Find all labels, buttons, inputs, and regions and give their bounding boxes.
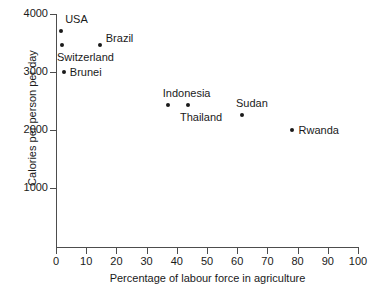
x-tick-label: 70 [252,256,282,267]
y-tick-mark [50,14,56,15]
x-tick-label: 0 [41,256,71,267]
x-tick-label: 80 [283,256,313,267]
x-tick-label: 30 [132,256,162,267]
data-point-label: Brazil [106,33,134,44]
x-axis-title: Percentage of labour force in agricultur… [56,272,359,284]
y-tick-label: 2000 [0,124,48,135]
x-tick-label: 100 [343,256,373,267]
x-tick-mark [147,248,148,254]
data-point-label: Sudan [236,98,268,109]
x-tick-mark [116,248,117,254]
y-tick-mark [50,130,56,131]
data-point-label: USA [65,14,88,25]
x-tick-mark [56,248,57,254]
x-tick-mark [177,248,178,254]
scatter-chart: 1000200030004000 0102030405060708090100 … [0,0,373,293]
y-tick-mark [50,188,56,189]
x-tick-mark [328,248,329,254]
x-tick-label: 90 [313,256,343,267]
data-point [60,43,64,47]
data-point-label: Switzerland [57,52,114,63]
data-point [240,113,244,117]
y-axis-line [56,14,57,247]
x-tick-mark [298,248,299,254]
x-tick-mark [86,248,87,254]
x-tick-label: 60 [222,256,252,267]
y-tick-label: 1000 [0,182,48,193]
data-point [186,103,190,107]
data-point [166,103,170,107]
y-tick-mark [50,72,56,73]
x-tick-mark [207,248,208,254]
data-point-label: Rwanda [299,125,339,136]
x-tick-mark [237,248,238,254]
x-tick-label: 50 [192,256,222,267]
y-tick-label: 4000 [0,8,48,19]
x-tick-mark [267,248,268,254]
data-point [98,43,102,47]
x-tick-mark [358,248,359,254]
data-point-label: Brunei [70,67,102,78]
x-tick-label: 40 [162,256,192,267]
y-axis-title: Calories per person per day [26,18,38,218]
data-point [290,128,294,132]
y-tick-label: 3000 [0,66,48,77]
data-point-label: Indonesia [163,88,211,99]
data-point-label: Thailand [180,112,222,123]
x-tick-label: 10 [71,256,101,267]
data-point [62,70,66,74]
data-point [59,29,63,33]
x-tick-label: 20 [101,256,131,267]
